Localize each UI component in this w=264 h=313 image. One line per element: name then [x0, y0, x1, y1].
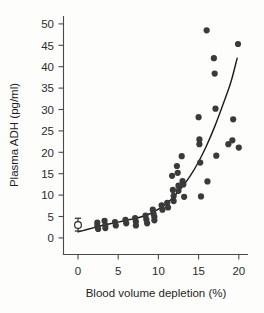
- data-point: [180, 181, 186, 187]
- fit-curve: [78, 58, 237, 232]
- data-point: [230, 116, 236, 122]
- y-axis-tick-labels: 50 45 40 35 30 25 20 15 10 5 0: [41, 18, 54, 244]
- x-axis-title: Blood volume depletion (%): [86, 287, 227, 299]
- data-point: [211, 55, 217, 61]
- data-point: [175, 170, 181, 176]
- data-point: [171, 198, 177, 204]
- data-point: [213, 153, 219, 159]
- x-axis-ticks: [78, 255, 239, 260]
- y-tick-label: 10: [41, 189, 54, 201]
- x-tick-label: 10: [152, 265, 165, 277]
- data-point: [102, 225, 108, 231]
- data-point: [159, 207, 165, 213]
- data-point: [151, 217, 157, 223]
- y-tick-label: 5: [48, 211, 54, 223]
- data-point: [229, 137, 235, 143]
- y-axis-title: Plasma ADH (pg/ml): [8, 83, 20, 187]
- data-point: [181, 194, 187, 200]
- x-tick-label: 15: [192, 265, 205, 277]
- data-point: [179, 153, 185, 159]
- data-points-group: [94, 27, 242, 232]
- y-axis-ticks: [59, 24, 64, 238]
- y-tick-label: 45: [41, 40, 54, 52]
- y-tick-label: 35: [41, 82, 54, 94]
- y-tick-label: 0: [48, 232, 54, 244]
- y-tick-label: 50: [41, 18, 54, 30]
- y-tick-label: 40: [41, 61, 54, 73]
- y-tick-label: 15: [41, 168, 54, 180]
- reference-point-marker: [75, 218, 82, 231]
- data-point: [212, 106, 218, 112]
- data-point: [165, 204, 171, 210]
- data-point: [95, 226, 101, 232]
- data-point: [169, 173, 175, 179]
- data-point: [175, 188, 181, 194]
- data-point: [113, 222, 119, 228]
- scatter-plot: 50 45 40 35 30 25 20 15 10 5 0 0 5 10 15…: [0, 0, 264, 313]
- chart-container: 50 45 40 35 30 25 20 15 10 5 0 0 5 10 15…: [0, 0, 264, 313]
- data-point: [204, 27, 210, 33]
- data-point: [204, 178, 210, 184]
- data-point: [196, 141, 202, 147]
- data-point: [123, 220, 129, 226]
- data-point: [236, 144, 242, 150]
- data-point: [198, 193, 204, 199]
- data-point: [144, 220, 150, 226]
- data-point: [235, 41, 241, 47]
- data-point: [197, 159, 203, 165]
- x-tick-label: 20: [232, 265, 245, 277]
- data-point: [170, 187, 176, 193]
- x-tick-label: 5: [115, 265, 121, 277]
- data-point: [174, 163, 180, 169]
- y-tick-label: 25: [41, 125, 54, 137]
- y-tick-label: 30: [41, 104, 54, 116]
- data-point: [212, 70, 218, 76]
- data-point: [133, 222, 139, 228]
- x-axis-tick-labels: 0 5 10 15 20: [75, 265, 245, 277]
- data-point: [196, 114, 202, 120]
- x-tick-label: 0: [75, 265, 81, 277]
- y-tick-label: 20: [41, 147, 54, 159]
